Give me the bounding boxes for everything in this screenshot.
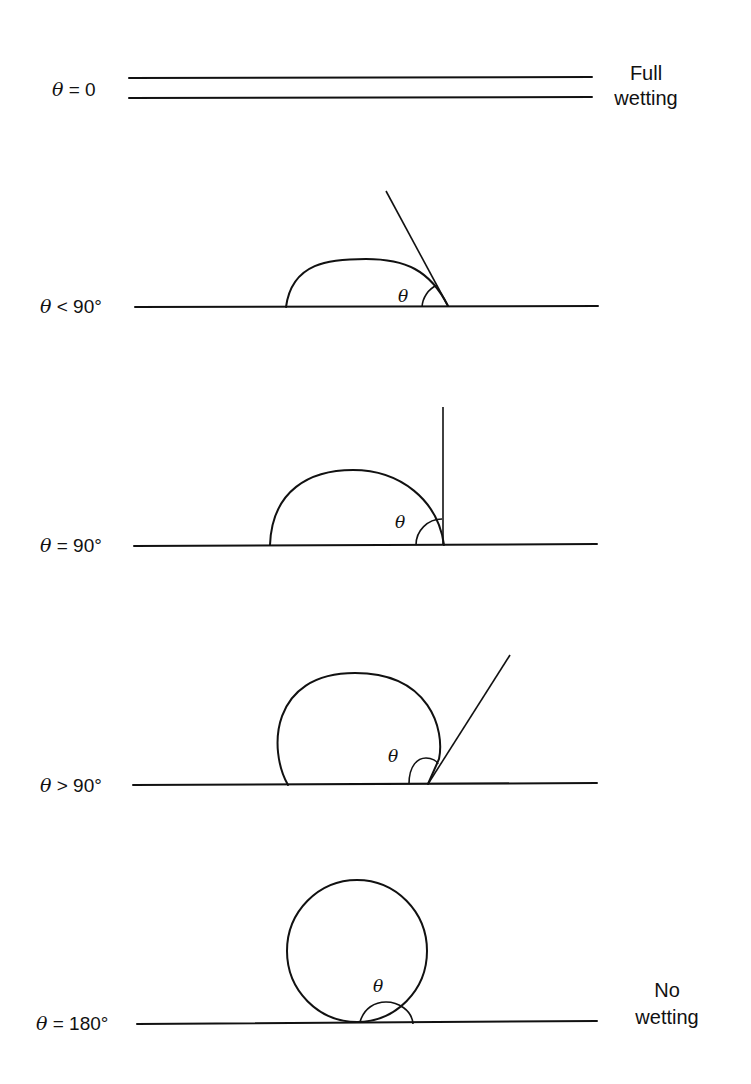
panel-label: θ < 90° <box>40 295 102 317</box>
substrate-line <box>129 97 592 98</box>
tangent-line <box>386 191 448 306</box>
angle-arc <box>422 285 437 307</box>
note-line-1: No <box>654 979 680 1001</box>
tangent-line <box>428 655 510 784</box>
drop-outline <box>278 673 441 785</box>
panel-acute-angle: θ < 90° θ <box>40 191 598 317</box>
theta-symbol: θ <box>395 512 405 532</box>
panel-label: θ = 0 <box>52 78 96 100</box>
theta-symbol: θ <box>398 286 408 306</box>
substrate-line <box>134 544 597 546</box>
note-line-1: Full <box>630 62 662 84</box>
film-top-line <box>129 77 592 78</box>
drop-outline <box>287 880 427 1022</box>
panel-label: θ > 90° <box>40 774 102 796</box>
theta-symbol: θ <box>388 746 398 766</box>
panel-right-angle: θ = 90° θ <box>40 407 597 556</box>
note-line-2: wetting <box>613 87 677 109</box>
panel-label: θ = 180° <box>36 1012 108 1034</box>
panel-no-wetting: θ = 180° θ No wetting <box>36 880 699 1034</box>
substrate-line <box>135 306 598 307</box>
panel-full-wetting: θ = 0 Full wetting <box>52 62 678 109</box>
note-line-2: wetting <box>634 1006 698 1028</box>
substrate-line <box>133 783 597 785</box>
wetting-diagram: θ = 0 Full wetting θ < 90° θ θ = 90° θ θ… <box>0 0 751 1084</box>
panel-obtuse-angle: θ > 90° θ <box>40 655 597 796</box>
panel-label: θ = 90° <box>40 534 102 556</box>
theta-symbol: θ <box>373 976 383 996</box>
